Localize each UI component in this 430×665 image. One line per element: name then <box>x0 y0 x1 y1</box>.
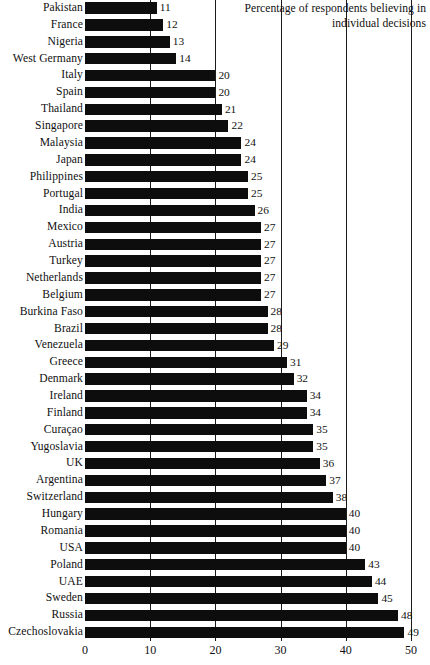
x-tick-label: 30 <box>275 643 287 657</box>
category-label: Czechoslovakia <box>8 624 83 640</box>
bar-value-label: 40 <box>346 540 360 556</box>
category-label: Curaçao <box>44 422 83 438</box>
category-label: Yugoslavia <box>30 439 83 455</box>
bar-value-label: 27 <box>261 237 275 253</box>
x-tick-label: 20 <box>209 643 221 657</box>
bar <box>85 154 241 165</box>
category-label: Portugal <box>43 186 83 202</box>
bar-chart-figure: Pakistan11France12Nigeria13West Germany1… <box>0 0 430 665</box>
bar-row: Austria27 <box>0 236 430 252</box>
bar <box>85 542 346 553</box>
bar-row: Philippines25 <box>0 169 430 185</box>
bar <box>85 593 378 604</box>
bar-value-label: 24 <box>241 135 255 151</box>
bar <box>85 390 307 401</box>
bar-value-label: 20 <box>215 68 229 84</box>
bar <box>85 441 313 452</box>
category-label: Brazil <box>54 321 83 337</box>
bar-row: Finland34 <box>0 405 430 421</box>
bar <box>85 36 170 47</box>
bar <box>85 458 320 469</box>
bar-row: Italy20 <box>0 67 430 83</box>
bar-value-label: 45 <box>378 591 392 607</box>
bar <box>85 188 248 199</box>
bar <box>85 373 294 384</box>
bar-row: Denmark32 <box>0 371 430 387</box>
category-label: Thailand <box>41 101 83 117</box>
category-label: UK <box>66 455 83 471</box>
bar-row: USA40 <box>0 540 430 556</box>
category-label: Romania <box>40 523 83 539</box>
bar-value-label: 28 <box>268 304 282 320</box>
bar-value-label: 40 <box>346 506 360 522</box>
bar <box>85 357 287 368</box>
bar <box>85 87 215 98</box>
bar-row: Japan24 <box>0 152 430 168</box>
bar-value-label: 25 <box>248 169 262 185</box>
bar-row: Brazil28 <box>0 321 430 337</box>
bar-value-label: 35 <box>313 439 327 455</box>
bar <box>85 2 157 13</box>
bar-row: Argentina37 <box>0 472 430 488</box>
bar-row: Hungary40 <box>0 506 430 522</box>
category-label: Argentina <box>36 472 83 488</box>
category-label: Nigeria <box>48 34 83 50</box>
bar-value-label: 27 <box>261 287 275 303</box>
category-label: Singapore <box>35 118 83 134</box>
bar-row: West Germany14 <box>0 51 430 67</box>
bar-row: Greece31 <box>0 354 430 370</box>
bar-value-label: 25 <box>248 186 262 202</box>
bar-row: Turkey27 <box>0 253 430 269</box>
category-label: Belgium <box>42 287 83 303</box>
category-label: Turkey <box>49 253 83 269</box>
category-label: UAE <box>59 574 83 590</box>
bar-value-label: 14 <box>176 51 190 67</box>
bar-value-label: 24 <box>241 152 255 168</box>
bar-row: India26 <box>0 202 430 218</box>
bar <box>85 205 255 216</box>
bar <box>85 53 176 64</box>
bar-row: Czechoslovakia49 <box>0 624 430 640</box>
bar-row: Mexico27 <box>0 219 430 235</box>
bar-row: Nigeria13 <box>0 34 430 50</box>
category-label: Russia <box>51 607 83 623</box>
bar <box>85 492 333 503</box>
bar-value-label: 32 <box>294 371 308 387</box>
bar-value-label: 27 <box>261 220 275 236</box>
bar <box>85 104 222 115</box>
bar <box>85 475 326 486</box>
bar-value-label: 43 <box>365 557 379 573</box>
bar <box>85 508 346 519</box>
x-tick-label: 10 <box>144 643 156 657</box>
bar-value-label: 35 <box>313 422 327 438</box>
category-label: Italy <box>61 67 83 83</box>
bar <box>85 627 404 638</box>
bar-row: Thailand21 <box>0 101 430 117</box>
bar-row: Switzerland38 <box>0 489 430 505</box>
bar-value-label: 34 <box>307 388 321 404</box>
bar-row: Spain20 <box>0 84 430 100</box>
x-tick-label: 50 <box>405 643 417 657</box>
plot-area: Pakistan11France12Nigeria13West Germany1… <box>0 0 430 641</box>
bar-row: Singapore22 <box>0 118 430 134</box>
bar-row: Netherlands27 <box>0 270 430 286</box>
bar <box>85 70 215 81</box>
bar-row: Burkina Faso28 <box>0 304 430 320</box>
bar-value-label: 13 <box>170 34 184 50</box>
category-label: France <box>51 17 83 33</box>
bar-value-label: 12 <box>163 17 177 33</box>
chart-title-line-1: Percentage of respondents believing in <box>222 2 426 17</box>
bar <box>85 137 241 148</box>
category-label: USA <box>60 540 84 556</box>
bar-row: UK36 <box>0 455 430 471</box>
bar-value-label: 31 <box>287 355 301 371</box>
bar-value-label: 40 <box>346 523 360 539</box>
category-label: Mexico <box>47 219 83 235</box>
bar-value-label: 36 <box>320 456 334 472</box>
chart-title-line-2: individual decisions <box>222 17 426 32</box>
bar <box>85 323 268 334</box>
x-tick-label: 40 <box>340 643 352 657</box>
bar-value-label: 20 <box>215 85 229 101</box>
bar-value-label: 22 <box>228 118 242 134</box>
bar-value-label: 34 <box>307 405 321 421</box>
